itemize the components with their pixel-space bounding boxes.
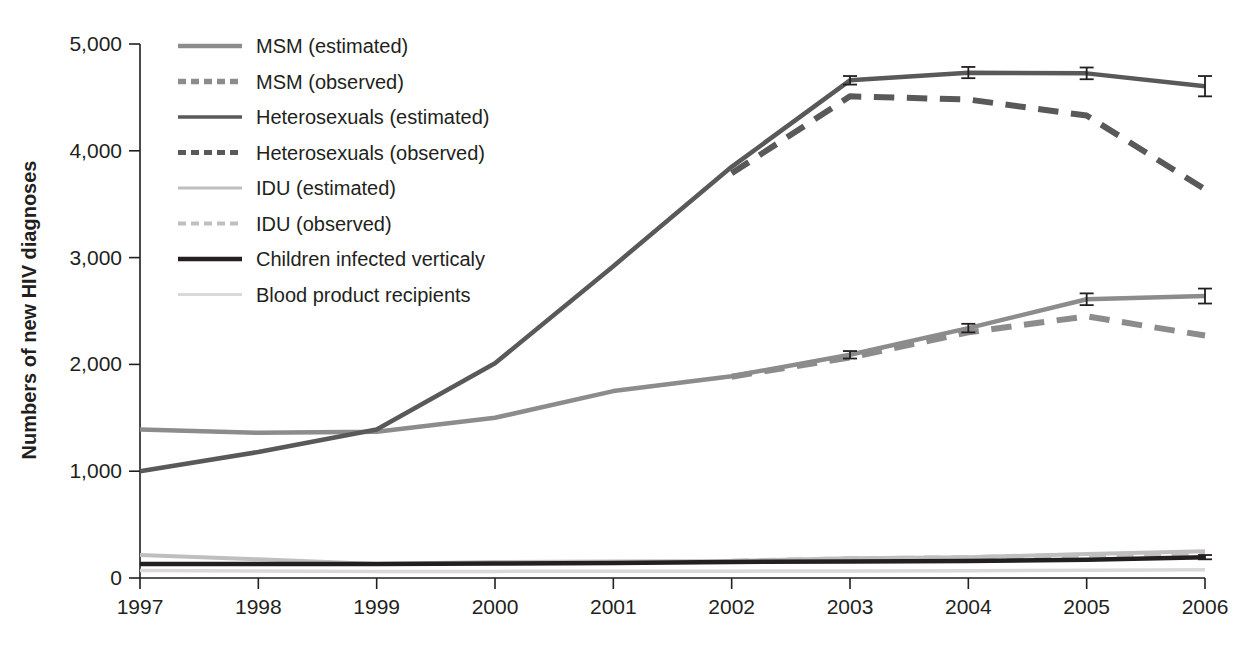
legend-label: Children infected verticaly xyxy=(256,248,485,270)
x-tick-label: 2005 xyxy=(1063,595,1110,618)
legend-label: IDU (estimated) xyxy=(256,177,396,199)
y-tick-label: 4,000 xyxy=(69,139,122,162)
series-line-heterosexuals-observed xyxy=(732,96,1205,189)
legend-label: IDU (observed) xyxy=(256,213,392,235)
x-tick-label: 2002 xyxy=(708,595,755,618)
y-axis-title: Numbers of new HIV diagnoses xyxy=(18,161,40,460)
legend-item[interactable]: Blood product recipients xyxy=(178,284,471,306)
y-axis-ticks: 01,0002,0003,0004,0005,000 xyxy=(69,32,140,589)
legend-item[interactable]: IDU (observed) xyxy=(178,213,392,235)
legend-item[interactable]: Heterosexuals (estimated) xyxy=(178,106,489,128)
legend-label: Heterosexuals (observed) xyxy=(256,142,485,164)
x-tick-label: 2001 xyxy=(590,595,637,618)
y-tick-label: 5,000 xyxy=(69,32,122,55)
legend-label: Blood product recipients xyxy=(256,284,471,306)
y-tick-label: 0 xyxy=(110,566,122,589)
x-tick-label: 1998 xyxy=(235,595,282,618)
hiv-diagnoses-line-chart: Numbers of new HIV diagnoses 01,0002,000… xyxy=(0,0,1254,654)
x-tick-label: 1999 xyxy=(353,595,400,618)
x-tick-label: 2004 xyxy=(945,595,992,618)
series-line-msm-estimated xyxy=(140,296,1205,433)
chart-container: Numbers of new HIV diagnoses 01,0002,000… xyxy=(0,0,1254,654)
legend-item[interactable]: Heterosexuals (observed) xyxy=(178,142,485,164)
x-axis-ticks: 1997199819992000200120022003200420052006 xyxy=(117,578,1229,618)
x-tick-label: 2006 xyxy=(1182,595,1229,618)
series-line-heterosexuals-estimated xyxy=(140,73,1205,471)
y-axis-title-text: Numbers of new HIV diagnoses xyxy=(18,161,40,460)
legend-item[interactable]: Children infected verticaly xyxy=(178,248,485,270)
y-tick-label: 1,000 xyxy=(69,459,122,482)
legend-item[interactable]: IDU (estimated) xyxy=(178,177,396,199)
chart-legend: MSM (estimated)MSM (observed)Heterosexua… xyxy=(178,35,489,306)
legend-label: Heterosexuals (estimated) xyxy=(256,106,489,128)
x-tick-label: 2003 xyxy=(827,595,874,618)
y-tick-label: 2,000 xyxy=(69,352,122,375)
x-tick-label: 2000 xyxy=(472,595,519,618)
y-tick-label: 3,000 xyxy=(69,246,122,269)
legend-label: MSM (observed) xyxy=(256,71,404,93)
legend-label: MSM (estimated) xyxy=(256,35,408,57)
legend-item[interactable]: MSM (estimated) xyxy=(178,35,408,57)
x-tick-label: 1997 xyxy=(117,595,164,618)
series-line-blood-product-recipients xyxy=(140,570,1205,572)
legend-item[interactable]: MSM (observed) xyxy=(178,71,404,93)
